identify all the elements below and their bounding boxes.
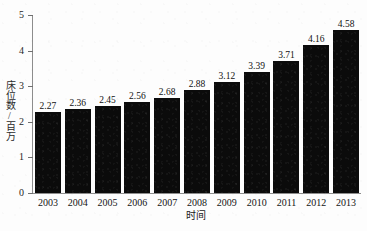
bar-group[interactable]: 3.71: [273, 15, 299, 193]
bar-rect[interactable]: [124, 102, 150, 193]
y-tick-label: 4: [10, 46, 24, 56]
bar-group[interactable]: 3.12: [214, 15, 240, 193]
bar-group[interactable]: 2.56: [124, 15, 150, 193]
bar-rect[interactable]: [35, 112, 61, 193]
bar-rect[interactable]: [244, 72, 270, 193]
bar-group[interactable]: 2.88: [184, 15, 210, 193]
bar-rect[interactable]: [214, 82, 240, 193]
bar-value-label: 3.71: [269, 50, 303, 60]
bar-group[interactable]: 3.39: [244, 15, 270, 193]
bar-rect[interactable]: [65, 109, 91, 193]
bar-rect[interactable]: [273, 61, 299, 193]
x-axis-title: 时间: [176, 210, 216, 221]
y-tick-mark: [28, 193, 33, 194]
x-axis-line: [32, 193, 361, 194]
bar-rect[interactable]: [95, 106, 121, 193]
bar-rect[interactable]: [154, 98, 180, 193]
y-tick-label: 5: [10, 10, 24, 20]
bar-group[interactable]: 2.68: [154, 15, 180, 193]
bar-group[interactable]: 4.58: [333, 15, 359, 193]
y-tick-label: 0: [10, 188, 24, 198]
bar-group[interactable]: 2.36: [65, 15, 91, 193]
bar-group[interactable]: 2.27: [35, 15, 61, 193]
bar-rect[interactable]: [303, 45, 329, 193]
bar-group[interactable]: 4.16: [303, 15, 329, 193]
bar-rect[interactable]: [333, 30, 359, 193]
y-tick-label: 2: [10, 117, 24, 127]
x-tick-label: 2013: [329, 197, 363, 208]
bar-rect[interactable]: [184, 90, 210, 193]
bar-value-label: 4.16: [299, 34, 333, 44]
bar-value-label: 3.12: [210, 71, 244, 81]
bar-group[interactable]: 2.45: [95, 15, 121, 193]
bar-chart-figure: 床位数/百万 012345 2.272.362.452.562.682.883.…: [0, 0, 367, 231]
y-tick-label: 3: [10, 81, 24, 91]
bar-value-label: 2.88: [180, 79, 214, 89]
bar-value-label: 3.39: [240, 61, 274, 71]
bar-value-label: 4.58: [329, 19, 363, 29]
y-axis-title: 床位数/百万: [1, 62, 17, 158]
y-tick-label: 1: [10, 152, 24, 162]
plot-area: 2.272.362.452.562.682.883.123.393.714.16…: [33, 15, 361, 193]
